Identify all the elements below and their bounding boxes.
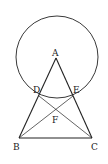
label-c: C <box>91 142 98 152</box>
label-b: B <box>13 142 20 152</box>
label-f: F <box>52 115 58 125</box>
segment-ab <box>19 58 56 138</box>
label-a: A <box>51 48 59 58</box>
segment-be <box>19 96 73 138</box>
label-d: D <box>33 85 40 95</box>
geometry-diagram: A D E F B C <box>0 0 108 164</box>
label-e: E <box>73 85 80 95</box>
segment-cd <box>39 96 92 138</box>
